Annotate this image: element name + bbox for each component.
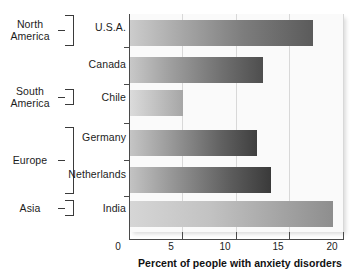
y-tick-1 xyxy=(124,47,130,48)
group-label-line1: South xyxy=(2,86,58,98)
gridline-5 xyxy=(182,14,183,232)
bar-label-usa: U.S.A. xyxy=(63,21,129,33)
x-tick-label-5: 5 xyxy=(160,241,182,252)
group-label-line2: America xyxy=(2,31,58,43)
x-tick-label-20: 20 xyxy=(321,241,343,252)
bar-label-canada: Canada xyxy=(63,58,129,70)
y-tick-2 xyxy=(124,84,130,85)
bar-label-india: India xyxy=(63,202,129,214)
bar-label-chile: Chile xyxy=(63,91,129,103)
group-label-line2: America xyxy=(2,98,58,110)
group-label-south-america: South America xyxy=(2,86,58,109)
y-tick-4 xyxy=(124,160,130,161)
x-tick-label-0: 0 xyxy=(107,241,129,252)
group-label-europe: Europe xyxy=(2,155,58,167)
bar-usa xyxy=(129,20,313,46)
x-tick-15 xyxy=(289,232,290,240)
group-label-north-america: North America xyxy=(2,19,58,42)
group-stem-europe xyxy=(58,160,65,161)
group-label-line1: Asia xyxy=(2,203,58,215)
group-label-line1: North xyxy=(2,19,58,31)
y-tick-3 xyxy=(124,123,130,124)
group-label-asia: Asia xyxy=(2,203,58,215)
x-axis-title: Percent of people with anxiety disorders xyxy=(129,257,351,269)
x-tick-5 xyxy=(182,232,183,240)
category-label-column: North America U.S.A. Canada South Americ… xyxy=(0,0,129,245)
x-tick-label-10: 10 xyxy=(214,241,236,252)
x-tick-label-15: 15 xyxy=(267,241,289,252)
plot-inner xyxy=(129,14,344,232)
bar-germany xyxy=(129,130,257,156)
gridline-15 xyxy=(289,14,290,232)
anxiety-disorders-bar-chart: North America U.S.A. Canada South Americ… xyxy=(0,0,357,278)
x-tick-0 xyxy=(129,232,130,240)
gridline-10 xyxy=(236,14,237,232)
bar-india xyxy=(129,201,333,227)
y-tick-5 xyxy=(124,196,130,197)
gridline-20 xyxy=(343,14,344,232)
plot-area xyxy=(129,14,344,232)
bar-label-germany: Germany xyxy=(63,131,129,143)
bar-label-netherlands: Netherlands xyxy=(57,168,129,180)
group-label-line1: Europe xyxy=(2,155,58,167)
x-tick-20 xyxy=(343,232,344,240)
bar-netherlands xyxy=(129,167,271,193)
bar-chile xyxy=(129,90,183,116)
bar-canada xyxy=(129,57,263,83)
x-tick-10 xyxy=(236,232,237,240)
